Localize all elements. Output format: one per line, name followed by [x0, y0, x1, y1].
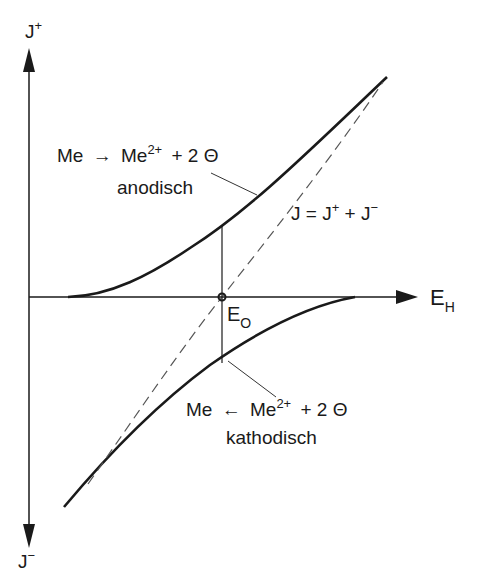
x-axis-arrow-icon: [396, 290, 418, 304]
cathodic-reactant: Me: [186, 399, 212, 420]
sum-lhs: J = J: [291, 203, 332, 224]
anodic-curve: [68, 77, 387, 297]
x-axis-label: EH: [430, 287, 455, 309]
sum-mid: + J: [339, 203, 370, 224]
y-axis-up-arrow-icon: [23, 48, 35, 72]
y-axis-positive-label: J+: [25, 22, 42, 41]
y-bottom-label-sup: −: [28, 548, 36, 563]
cathodic-reaction-label: Me ← Me2+ + 2 Θ: [186, 400, 347, 419]
sum-current-label: J = J+ + J−: [291, 204, 378, 223]
y-top-label-text: J: [25, 21, 35, 42]
cathodic-leader-line: [228, 361, 276, 397]
x-label-text: E: [430, 285, 445, 310]
anodic-leader-line: [211, 173, 257, 195]
anodic-name-label: anodisch: [117, 178, 193, 197]
sum-sup-minus: −: [370, 200, 378, 215]
y-top-label-sup: +: [35, 18, 43, 33]
cathodic-arrow-icon: ←: [222, 399, 241, 420]
cathodic-charge: 2+: [276, 396, 291, 411]
x-label-sub: H: [445, 300, 455, 314]
y-axis-down-arrow-icon: [23, 524, 35, 548]
anodic-reaction-label: Me → Me2+ + 2 Θ: [57, 146, 218, 165]
anodic-charge: 2+: [147, 142, 162, 157]
y-axis-negative-label: J−: [18, 552, 35, 571]
cathodic-product: Me: [250, 399, 276, 420]
equilibrium-potential-label: EO: [227, 304, 251, 324]
cathodic-name-label: kathodisch: [226, 428, 317, 447]
equilibrium-label-sub: O: [240, 316, 251, 330]
anodic-electrons: + 2 Θ: [171, 145, 218, 166]
cathodic-electrons: + 2 Θ: [300, 399, 347, 420]
sum-current-dashed-line: [88, 82, 383, 484]
polarization-diagram: [0, 0, 478, 577]
sum-sup-plus: +: [332, 200, 340, 215]
anodic-reactant: Me: [57, 145, 83, 166]
equilibrium-label-text: E: [227, 303, 240, 325]
y-bottom-label-text: J: [18, 551, 28, 572]
anodic-arrow-icon: →: [93, 145, 112, 166]
anodic-product: Me: [121, 145, 147, 166]
